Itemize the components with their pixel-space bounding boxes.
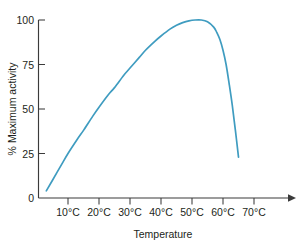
y-axis-title: % Maximum activity [6, 62, 18, 156]
enzyme-activity-temperature-chart: 100 75 50 25 0 10°C 20°C 30°C 40°C 50°C … [0, 0, 306, 245]
x-axis-arrow-icon [288, 194, 296, 201]
x-tick-label-10: 10°C [56, 206, 80, 218]
x-tick-label-40: 40°C [149, 206, 173, 218]
x-tick-label-70: 70°C [242, 206, 266, 218]
y-tick-label-50: 50 [22, 103, 34, 115]
y-tick-label-75: 75 [22, 59, 34, 71]
y-tick-label-25: 25 [22, 148, 34, 160]
activity-curve [46, 20, 238, 191]
x-tick-marks [68, 198, 254, 205]
x-tick-label-20: 20°C [87, 206, 111, 218]
y-tick-marks [39, 20, 46, 154]
chart-canvas: 100 75 50 25 0 10°C 20°C 30°C 40°C 50°C … [0, 0, 306, 245]
y-tick-label-0: 0 [28, 192, 34, 204]
x-axis-title: Temperature [134, 228, 193, 240]
x-tick-label-60: 60°C [211, 206, 235, 218]
y-tick-label-100: 100 [16, 14, 34, 26]
x-tick-label-50: 50°C [180, 206, 204, 218]
x-tick-label-30: 30°C [118, 206, 142, 218]
